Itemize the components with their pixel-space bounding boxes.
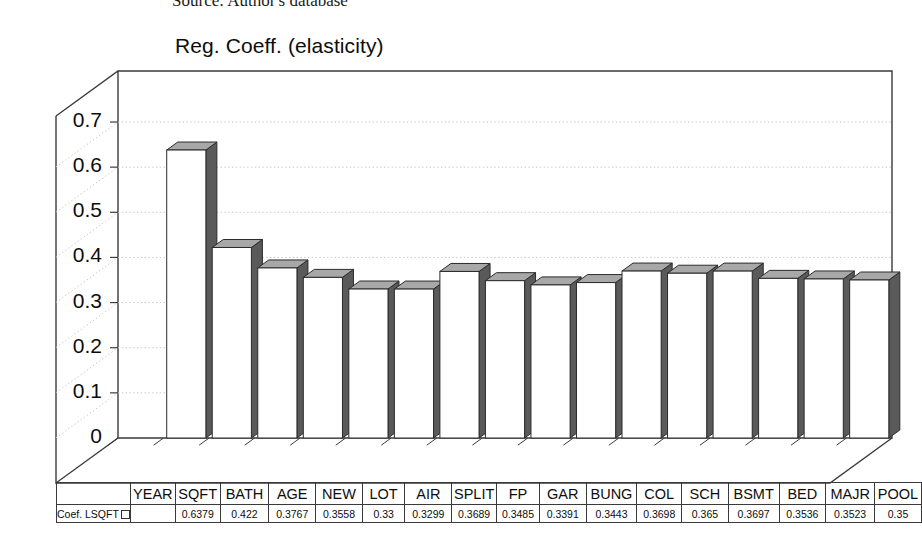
bar-LOT bbox=[349, 281, 399, 438]
table-value-cell: 0.3391 bbox=[539, 505, 586, 523]
bar-AIR bbox=[394, 281, 444, 438]
bar-POOL bbox=[850, 272, 900, 438]
table-value-cell: 0.6379 bbox=[175, 505, 220, 523]
table-header-cell: SPLIT bbox=[452, 483, 497, 505]
table-header-cell: SCH bbox=[682, 483, 729, 505]
legend-swatch-icon bbox=[121, 510, 130, 519]
table-value-cell bbox=[130, 505, 175, 523]
legend-cell: Coef. LSQFT bbox=[57, 505, 131, 523]
table-header-cell: FP bbox=[497, 483, 540, 505]
table-value-cell: 0.3443 bbox=[586, 505, 637, 523]
bar-SQFT bbox=[167, 142, 217, 438]
table-header-cell: BATH bbox=[220, 483, 269, 505]
table-header-cell: SQFT bbox=[175, 483, 220, 505]
table-value-cell: 0.3697 bbox=[728, 505, 779, 523]
table-value-cell: 0.3485 bbox=[497, 505, 540, 523]
bar-MAJR bbox=[804, 271, 854, 438]
bar-GAR bbox=[531, 277, 581, 438]
table-corner-blank bbox=[57, 483, 131, 505]
bar-AGE bbox=[258, 260, 308, 438]
bar-SPLIT bbox=[440, 263, 490, 438]
legend-label: Coef. LSQFT bbox=[57, 508, 119, 520]
bar-BUNG bbox=[576, 275, 626, 438]
table-value-cell: 0.3689 bbox=[452, 505, 497, 523]
table-header-cell: YEAR bbox=[130, 483, 175, 505]
table-value-cell: 0.3698 bbox=[637, 505, 682, 523]
table-value-cell: 0.365 bbox=[682, 505, 729, 523]
table-header-cell: BSMT bbox=[728, 483, 779, 505]
data-table: YEARSQFTBATHAGENEWLOTAIRSPLITFPGARBUNGCO… bbox=[56, 482, 922, 523]
table-value-cell: 0.3558 bbox=[316, 505, 363, 523]
bar-BSMT bbox=[713, 263, 763, 438]
table-header-cell: BED bbox=[779, 483, 826, 505]
data-table-wrapper: YEARSQFTBATHAGENEWLOTAIRSPLITFPGARBUNGCO… bbox=[56, 482, 922, 523]
bar-BED bbox=[759, 270, 809, 438]
bar-COL bbox=[622, 263, 672, 438]
bar-FP bbox=[485, 273, 535, 438]
table-header-cell: GAR bbox=[539, 483, 586, 505]
table-value-cell: 0.33 bbox=[362, 505, 405, 523]
table-value-cell: 0.3536 bbox=[779, 505, 826, 523]
table-header-cell: MAJR bbox=[826, 483, 875, 505]
table-header-row: YEARSQFTBATHAGENEWLOTAIRSPLITFPGARBUNGCO… bbox=[57, 483, 922, 505]
bar-chart-plot bbox=[0, 0, 922, 534]
bar-NEW bbox=[303, 269, 353, 438]
table-header-cell: AGE bbox=[269, 483, 316, 505]
bar-SCH bbox=[668, 265, 718, 438]
table-value-cell: 0.3299 bbox=[405, 505, 452, 523]
table-values-row: Coef. LSQFT0.63790.4220.37670.35580.330.… bbox=[57, 505, 922, 523]
table-header-cell: NEW bbox=[316, 483, 363, 505]
table-value-cell: 0.3767 bbox=[269, 505, 316, 523]
table-header-cell: COL bbox=[637, 483, 682, 505]
table-header-cell: BUNG bbox=[586, 483, 637, 505]
table-header-cell: POOL bbox=[875, 483, 922, 505]
table-value-cell: 0.3523 bbox=[826, 505, 875, 523]
table-header-cell: AIR bbox=[405, 483, 452, 505]
bar-BATH bbox=[212, 239, 262, 438]
table-value-cell: 0.422 bbox=[220, 505, 269, 523]
table-value-cell: 0.35 bbox=[875, 505, 922, 523]
table-header-cell: LOT bbox=[362, 483, 405, 505]
